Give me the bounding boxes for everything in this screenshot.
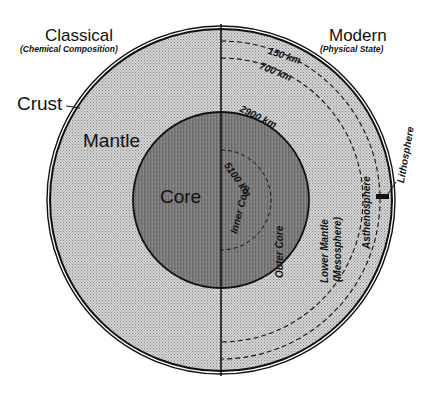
- lower-mantle-label: Lower Mantle: [319, 219, 330, 283]
- lithosphere-marker: [376, 194, 389, 199]
- core-label: Core: [160, 186, 201, 208]
- crust-label: Crust: [17, 93, 62, 115]
- modern-title: Modern: [329, 26, 387, 46]
- classical-subtitle: (Chemical Composition): [20, 44, 118, 54]
- modern-subtitle: (Physical State): [320, 44, 383, 54]
- mesosphere-label: (Mesosphere): [332, 217, 343, 282]
- outer-core-label: Outer Core: [274, 226, 285, 278]
- mantle-label: Mantle: [83, 130, 140, 152]
- asthenosphere-label: Asthenosphere: [361, 176, 372, 249]
- classical-title: Classical: [45, 26, 113, 46]
